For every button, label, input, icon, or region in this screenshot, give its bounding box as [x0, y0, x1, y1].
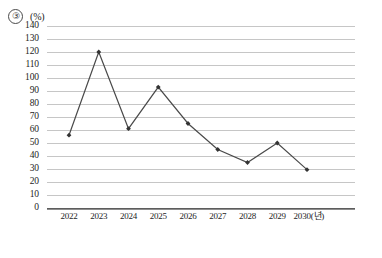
x-axis-tick-label: 2025	[150, 212, 167, 221]
x-axis-tick-label: 2023	[90, 212, 107, 221]
plot-area	[47, 26, 355, 208]
x-axis-tick-label: 2024	[120, 212, 137, 221]
y-axis-tick-label: 90	[30, 86, 39, 96]
y-axis-tick-label: 70	[30, 112, 39, 122]
x-axis-tick-label: 2028	[239, 212, 256, 221]
y-axis-tick-label: 40	[30, 151, 39, 161]
y-axis-tick-label: 0	[34, 203, 39, 213]
y-axis-tick-label: 30	[30, 164, 39, 174]
y-axis-tick-label: 20	[30, 177, 39, 187]
chart-figure: ③ (%) 1401301201101009080706050403020100…	[0, 0, 382, 258]
gridline	[47, 195, 355, 196]
x-axis-tick-label: 2030(년)	[294, 212, 325, 221]
x-axis-tick-label: 2029	[269, 212, 286, 221]
x-axis-tick-labels: 202220232024202520262027202820292030(년)	[47, 212, 355, 230]
y-axis-tick-label: 110	[25, 60, 39, 70]
item-number-badge: ③	[8, 9, 23, 24]
y-axis-tick-label: 60	[30, 125, 39, 135]
y-axis-tick-label: 130	[25, 34, 39, 44]
data-point-marker	[96, 50, 101, 55]
x-axis-tick-label: 2027	[209, 212, 226, 221]
x-axis-tick-label: 2022	[60, 212, 77, 221]
line-series	[47, 26, 347, 176]
y-axis-tick-label: 10	[30, 190, 39, 200]
y-axis-tick-label: 80	[30, 99, 39, 109]
y-axis-tick-label: 50	[30, 138, 39, 148]
y-axis-tick-label: 140	[25, 21, 39, 31]
y-axis-tick-label: 120	[25, 47, 39, 57]
y-axis-tick-labels: 1401301201101009080706050403020100	[0, 26, 44, 208]
y-axis-tick-label: 100	[25, 73, 39, 83]
series-line	[69, 52, 307, 170]
data-point-marker	[67, 133, 72, 138]
x-axis-line	[47, 208, 355, 209]
x-axis-tick-label: 2026	[179, 212, 196, 221]
gridline	[47, 182, 355, 183]
